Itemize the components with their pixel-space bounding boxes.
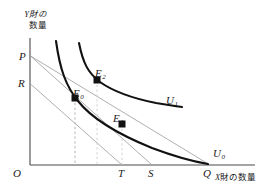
y-axis-label: Y財の 数量 (7, 9, 47, 30)
point-label-E1-sub: 1 (120, 118, 124, 126)
curve-label-U0: U0 (213, 148, 224, 159)
point-label-E2-base: E (95, 67, 102, 79)
x-intercept-label-Q: Q (203, 168, 211, 179)
point-label-E1: E1 (113, 113, 123, 124)
point-label-E2: E2 (95, 68, 105, 79)
y-axis-label-line1: Y財の (24, 9, 47, 19)
x-intercept-label-T: T (118, 168, 124, 179)
budget-lines-group (31, 56, 211, 165)
point-label-E0-sub: 0 (80, 93, 84, 101)
curve-label-U1-base: U (166, 94, 174, 106)
x-axis-label: X財の数量 (215, 172, 256, 183)
x-intercept-label-S: S (148, 168, 154, 179)
curve-label-U1-sub: 1 (174, 100, 178, 108)
origin-label: O (13, 168, 21, 179)
budget-line-PQ (31, 56, 211, 165)
indifference-curves-group (56, 41, 208, 164)
point-label-E0-base: E (73, 87, 80, 99)
curve-label-U0-sub: 0 (221, 153, 225, 161)
axes-group (30, 38, 255, 165)
y-axis-label-line2: 数量 (29, 20, 47, 30)
indifference-curve-U0 (56, 41, 208, 164)
y-intercept-label-P: P (19, 51, 26, 62)
point-label-E1-base: E (113, 112, 120, 124)
x-axis-label-text: 財の数量 (220, 172, 256, 182)
point-label-E0: E0 (73, 88, 83, 99)
point-label-E2-sub: 2 (102, 73, 106, 81)
indifference-curve-diagram: Y財の 数量 X財の数量 O P R T S Q E0 E2 E1 U1 U0 (0, 0, 265, 192)
curve-label-U0-base: U (213, 147, 221, 159)
y-intercept-label-R: R (18, 78, 25, 89)
curve-label-U1: U1 (166, 95, 177, 106)
